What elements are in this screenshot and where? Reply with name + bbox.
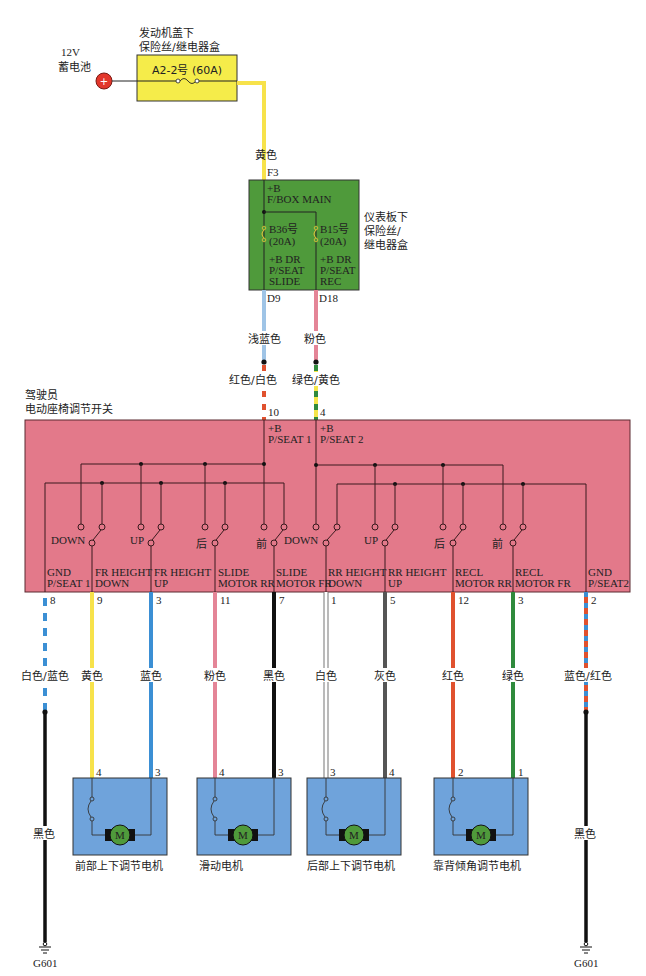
svg-text:4: 4	[96, 766, 102, 778]
battery-label: 蓄电池	[58, 61, 91, 74]
svg-text:REC: REC	[320, 275, 341, 287]
svg-text:11: 11	[220, 594, 231, 606]
switch-label-8: 前	[492, 537, 503, 551]
seat-switch-title-1: 驾驶员	[25, 388, 58, 402]
motor-slide: 4 3 M 滑动电机	[197, 766, 291, 873]
engine-fusebox-title-1: 发动机盖下	[139, 26, 194, 40]
svg-text:P/SEAT 1: P/SEAT 1	[268, 433, 312, 445]
svg-text:蓝色/红色: 蓝色/红色	[564, 669, 612, 683]
svg-text:P/SEAT2: P/SEAT2	[588, 577, 629, 589]
svg-text:M: M	[238, 829, 248, 841]
svg-text:3: 3	[155, 766, 161, 778]
motor-label-4: 靠背倾角调节电机	[433, 859, 521, 873]
engine-fuse-label: A2-2号 (60A)	[152, 64, 222, 77]
svg-text:红色/白色: 红色/白色	[229, 373, 277, 387]
pin-f3: F3	[267, 166, 279, 178]
wire-color-labels: 白色/蓝色 黄色 蓝色 粉色 黑色 白色 灰色 红色 绿色 蓝色/红色	[20, 668, 617, 683]
battery-voltage: 12V	[61, 46, 80, 58]
svg-text:3: 3	[518, 594, 524, 606]
switch-label-4: 前	[256, 537, 267, 551]
ground-label-left: G601	[33, 957, 57, 969]
seat-wiring-diagram: 12V 蓄电池 + 发动机盖下 保险丝/继电器盒 A2-2号 (60A) 黄色 …	[0, 0, 646, 976]
ground-icon-right	[580, 942, 592, 953]
switch-label-6: UP	[364, 534, 378, 546]
svg-text:B36号: B36号	[269, 223, 298, 235]
panel-fusebox-title-2: 保险丝/	[364, 224, 401, 238]
pin-4: 4	[320, 406, 326, 418]
engine-fusebox	[137, 55, 237, 101]
pin-10: 10	[268, 406, 280, 418]
wire-feed-color: 黄色	[255, 148, 277, 162]
svg-text:2: 2	[458, 766, 464, 778]
engine-fusebox-title-2: 保险丝/继电器盒	[139, 40, 220, 54]
battery-icon: +	[96, 73, 112, 89]
svg-text:黑色: 黑色	[263, 669, 285, 683]
svg-text:SLIDE: SLIDE	[269, 275, 300, 287]
svg-text:1: 1	[518, 766, 524, 778]
wire-yellow-feed	[237, 83, 264, 180]
svg-text:白色: 白色	[315, 669, 337, 683]
svg-text:9: 9	[97, 594, 103, 606]
switch-label-3: 后	[196, 538, 207, 551]
switch-label-5: DOWN	[284, 534, 318, 546]
motor-recline: 2 1 M 靠背倾角调节电机	[433, 766, 528, 873]
svg-text:P/SEAT 2: P/SEAT 2	[320, 433, 364, 445]
svg-text:MOTOR RR: MOTOR RR	[455, 577, 513, 589]
svg-text:M: M	[115, 829, 125, 841]
ground-wire-label-right: 黑色	[574, 827, 596, 841]
svg-text:绿色: 绿色	[502, 669, 524, 683]
svg-text:7: 7	[279, 594, 285, 606]
svg-text:(20A): (20A)	[269, 235, 296, 248]
svg-text:12: 12	[458, 594, 469, 606]
motor-rear-height: 3 4 M 后部上下调节电机	[307, 766, 401, 873]
motor-front-height: 4 3 M 前部上下调节电机	[73, 766, 167, 873]
svg-text:蓝色: 蓝色	[140, 669, 162, 683]
svg-text:MOTOR RR: MOTOR RR	[218, 577, 276, 589]
svg-text:DOWN: DOWN	[328, 577, 362, 589]
svg-text:DOWN: DOWN	[95, 577, 129, 589]
switch-label-2: UP	[130, 534, 144, 546]
motor-label-2: 滑动电机	[199, 859, 243, 873]
svg-text:B15号: B15号	[320, 223, 349, 235]
panel-fusebox-title-1: 仪表板下	[364, 210, 408, 224]
svg-text:3: 3	[278, 766, 284, 778]
svg-text:M: M	[476, 829, 486, 841]
svg-text:白色/蓝色: 白色/蓝色	[21, 669, 69, 683]
svg-text:3: 3	[156, 594, 162, 606]
pin-d18: D18	[319, 292, 338, 304]
motor-label-3: 后部上下调节电机	[307, 859, 395, 873]
svg-text:黄色: 黄色	[81, 669, 103, 683]
svg-text:UP: UP	[388, 577, 402, 589]
svg-text:P/SEAT 1: P/SEAT 1	[47, 577, 91, 589]
svg-text:UP: UP	[154, 577, 168, 589]
svg-text:MOTOR FR: MOTOR FR	[515, 577, 571, 589]
svg-text:M: M	[349, 829, 359, 841]
seat-switch-title-2: 电动座椅调节开关	[25, 402, 113, 416]
svg-text:4: 4	[389, 766, 395, 778]
svg-text:8: 8	[50, 594, 56, 606]
svg-text:粉色: 粉色	[304, 332, 326, 346]
svg-text:(20A): (20A)	[320, 235, 347, 248]
svg-text:+: +	[100, 76, 108, 87]
svg-text:1: 1	[331, 594, 337, 606]
svg-text:红色: 红色	[442, 669, 464, 683]
pin-d9: D9	[267, 292, 281, 304]
svg-text:5: 5	[390, 594, 396, 606]
svg-text:粉色: 粉色	[204, 669, 226, 683]
ground-icon-left	[39, 942, 51, 953]
svg-text:MOTOR FR: MOTOR FR	[276, 577, 332, 589]
motor-label-1: 前部上下调节电机	[75, 859, 163, 873]
ground-label-right: G601	[574, 957, 598, 969]
svg-text:灰色: 灰色	[374, 669, 396, 683]
switch-label-1: DOWN	[51, 534, 85, 546]
svg-text:浅蓝色: 浅蓝色	[248, 332, 281, 346]
svg-text:绿色/黄色: 绿色/黄色	[292, 373, 340, 387]
svg-text:2: 2	[591, 594, 597, 606]
svg-text:F/BOX MAIN: F/BOX MAIN	[267, 193, 332, 205]
svg-text:4: 4	[219, 766, 225, 778]
switch-label-7: 后	[434, 538, 445, 551]
panel-fusebox-title-3: 继电器盒	[364, 238, 408, 252]
ground-wire-label-left: 黑色	[33, 827, 55, 841]
svg-text:3: 3	[330, 766, 336, 778]
